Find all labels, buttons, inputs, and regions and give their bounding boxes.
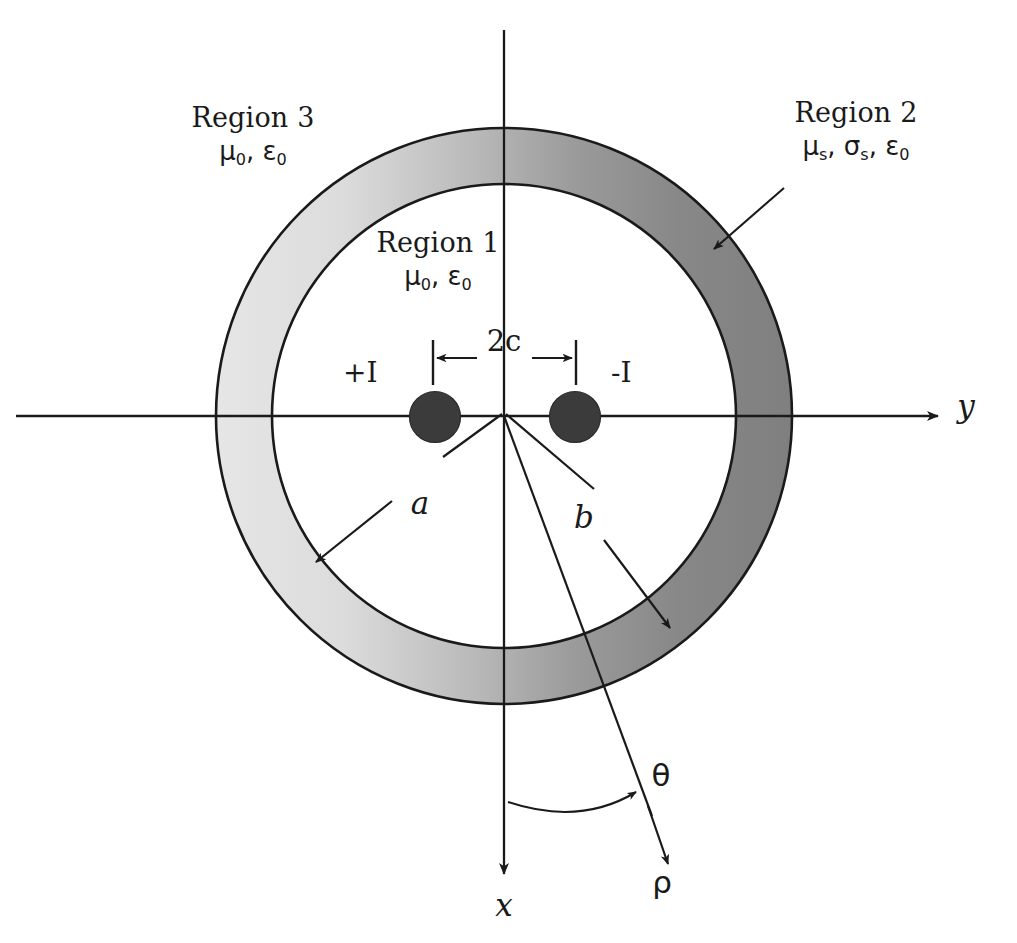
- leader-region-2: [714, 188, 784, 249]
- region-3-title: Region 3: [191, 103, 314, 133]
- region-1-title: Region 1: [376, 228, 499, 258]
- region-1-callout: Region 1 μ0, ε0: [376, 228, 499, 291]
- region-3-properties: μ0, ε0: [191, 137, 314, 166]
- rho-label: ρ: [652, 865, 672, 900]
- current-positive-label: +I: [343, 357, 378, 388]
- figure-canvas: Region 3 μ0, ε0 Region 2 μs, σs, ε0 Regi…: [0, 0, 1017, 943]
- rho-arrow: [648, 806, 668, 864]
- radius-b-label: b: [574, 500, 594, 535]
- leader-a-arrow: [316, 501, 392, 562]
- theta-label: θ: [652, 758, 671, 793]
- region-2-title: Region 2: [794, 98, 917, 128]
- y-axis-label: y: [957, 389, 975, 424]
- conductor-negative: [550, 392, 601, 443]
- region-leaders: [714, 188, 784, 249]
- current-negative-label: -I: [611, 357, 632, 388]
- separation-label: 2c: [487, 325, 522, 357]
- theta-arc: [508, 792, 636, 812]
- region-1-properties: μ0, ε0: [376, 262, 499, 291]
- radius-leaders: [316, 414, 670, 628]
- region-2-callout: Region 2 μs, σs, ε0: [794, 98, 917, 161]
- x-axis-label: x: [495, 888, 512, 923]
- region-2-properties: μs, σs, ε0: [794, 132, 917, 161]
- region-3-callout: Region 3 μ0, ε0: [191, 103, 314, 166]
- conductor-positive: [410, 392, 461, 443]
- radius-a-label: a: [411, 486, 429, 521]
